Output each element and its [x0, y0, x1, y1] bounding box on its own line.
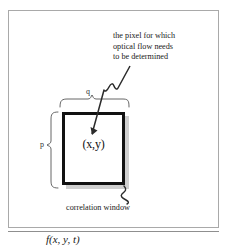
optical-flow-figure: (x,y) the pixel for which optical flow n… [0, 0, 229, 247]
correlation-window-caption: correlation window [66, 203, 130, 212]
dimension-label-q: q [86, 87, 90, 96]
caption-divider [8, 231, 219, 232]
dimension-label-p: p [40, 140, 44, 149]
leader-line-window-caption [121, 186, 128, 204]
figure-formula-caption: f(x, y, t) [46, 233, 80, 245]
annotation-line-3: to be determined [113, 52, 217, 63]
annotation-text: the pixel for which optical flow needs t… [113, 31, 217, 63]
annotation-line-2: optical flow needs [113, 42, 217, 53]
leader-line-pixel [92, 66, 130, 134]
annotation-line-1: the pixel for which [113, 31, 217, 42]
